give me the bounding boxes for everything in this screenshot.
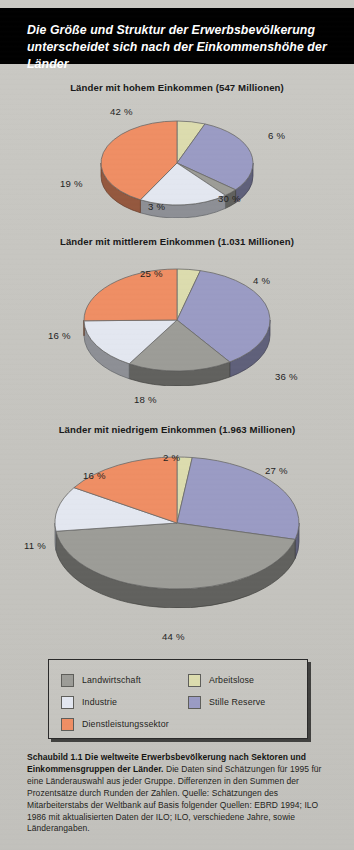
pie-chart-title: Länder mit mittlerem Einkommen (1.031 Mi… bbox=[0, 236, 354, 247]
pie-chart-canvas bbox=[0, 247, 354, 386]
legend-grid: Landwirtschaft Arbeitslose Industrie Sti… bbox=[61, 669, 301, 735]
pie-chart-canvas bbox=[0, 93, 354, 218]
pie-slice-label-stille reserve: 36 % bbox=[275, 371, 298, 382]
legend-swatch-icon bbox=[61, 696, 74, 709]
pie-slice-label-dienstleistungssektor: 16 % bbox=[83, 470, 106, 481]
pie-slice-label-landwirtschaft: 44 % bbox=[162, 631, 185, 642]
pie-slice-label-dienstleistungssektor: 42 % bbox=[110, 106, 133, 117]
legend-item-industrie[interactable]: Industrie bbox=[61, 696, 188, 709]
legend-item-stille-reserve[interactable]: Stille Reserve bbox=[188, 696, 298, 709]
legend-swatch-icon bbox=[61, 674, 74, 687]
legend-item-label: Industrie bbox=[82, 697, 117, 707]
legend-item-landwirtschaft[interactable]: Landwirtschaft bbox=[61, 674, 188, 687]
legend-item-dienstleistungssektor[interactable]: Dienstleistungssektor bbox=[61, 718, 261, 731]
legend-row: Dienstleistungssektor bbox=[61, 713, 301, 735]
legend-row: Industrie Stille Reserve bbox=[61, 691, 301, 713]
pie-slice-label-landwirtschaft: 18 % bbox=[134, 394, 157, 405]
pie-slice-label-stille reserve: 27 % bbox=[265, 465, 288, 476]
pie-slice-dienstleistungssektor[interactable] bbox=[84, 269, 177, 321]
pie-slice-label-arbeitslose: 6 % bbox=[268, 130, 285, 141]
header-banner: Die Größe und Struktur der Erwerbsbevölk… bbox=[0, 8, 354, 64]
figure-page: Die Größe und Struktur der Erwerbsbevölk… bbox=[0, 0, 354, 850]
pie-slice-label-dienstleistungssektor: 25 % bbox=[140, 268, 163, 279]
figure-caption: Schaubild 1.1 Die weltweite Erwerbsbevöl… bbox=[27, 752, 331, 835]
caption-body: Die Daten sind Schätzungen für 1995 für … bbox=[27, 764, 321, 834]
page-title: Die Größe und Struktur der Erwerbsbevölk… bbox=[27, 22, 327, 73]
pie-slice-label-arbeitslose: 4 % bbox=[253, 275, 270, 286]
pie-slice-label-stille reserve: 30 % bbox=[218, 193, 241, 204]
pie-slice-label-arbeitslose: 2 % bbox=[163, 452, 180, 463]
pie-chart-block-1: Länder mit hohem Einkommen (547 Millione… bbox=[0, 82, 354, 218]
pie-slice-label-industrie: 11 % bbox=[24, 540, 46, 551]
legend-item-label: Stille Reserve bbox=[209, 697, 265, 707]
pie-slice-label-industrie: 16 % bbox=[48, 330, 71, 341]
pie-chart-block-2: Länder mit mittlerem Einkommen (1.031 Mi… bbox=[0, 236, 354, 386]
legend: Landwirtschaft Arbeitslose Industrie Sti… bbox=[48, 659, 308, 739]
pie-top-faces bbox=[84, 269, 270, 371]
legend-swatch-icon bbox=[188, 696, 201, 709]
legend-item-arbeitslose[interactable]: Arbeitslose bbox=[188, 674, 298, 687]
legend-item-label: Dienstleistungssektor bbox=[82, 719, 169, 729]
legend-swatch-icon bbox=[188, 674, 201, 687]
legend-row: Landwirtschaft Arbeitslose bbox=[61, 669, 301, 691]
legend-swatch-icon bbox=[61, 718, 74, 731]
header-inner: Die Größe und Struktur der Erwerbsbevölk… bbox=[27, 22, 327, 73]
legend-item-label: Landwirtschaft bbox=[82, 675, 141, 685]
legend-item-label: Arbeitslose bbox=[209, 675, 254, 685]
pie-chart-title: Länder mit niedrigem Einkommen (1.963 Mi… bbox=[0, 424, 354, 435]
pie-slice-label-landwirtschaft: 3 % bbox=[148, 201, 165, 212]
pie-slice-label-industrie: 19 % bbox=[60, 178, 83, 189]
pie-chart-title: Länder mit hohem Einkommen (547 Millione… bbox=[0, 82, 354, 93]
